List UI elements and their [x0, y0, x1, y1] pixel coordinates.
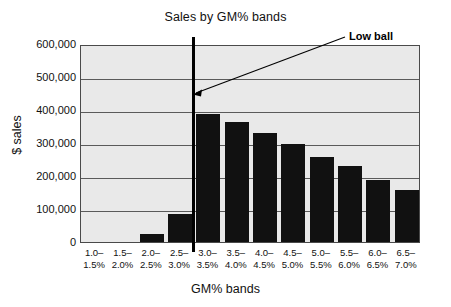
x-axis-tick-label: 1.0–1.5%	[80, 247, 108, 271]
y-axis-tick-label: 300,000	[4, 137, 76, 149]
bar[interactable]	[366, 180, 390, 242]
x-axis-tick-label-line: 4.5–	[278, 247, 306, 259]
x-axis-tick-label: 4.0–4.5%	[250, 247, 278, 271]
x-axis-tick-label-line: 7.0%	[392, 259, 420, 271]
y-axis-tick-label: 200,000	[4, 170, 76, 182]
plot-area	[80, 45, 420, 243]
bar-slot	[251, 46, 279, 242]
y-axis-tick-label: 0	[4, 236, 76, 248]
bar-slot	[308, 46, 336, 242]
bar-slot	[81, 46, 109, 242]
x-axis-tick-label-line: 2.0–	[137, 247, 165, 259]
x-axis-tick-label-line: 5.0–	[307, 247, 335, 259]
x-axis-tick-label-line: 1.5%	[80, 259, 108, 271]
x-axis-tick-label-line: 6.0–	[363, 247, 391, 259]
bar[interactable]	[253, 133, 277, 242]
x-axis-tick-labels: 1.0–1.5%1.5–2.0%2.0–2.5%2.5–3.0%3.0–3.5%…	[80, 247, 420, 281]
y-axis-tick-label: 500,000	[4, 71, 76, 83]
bar-slot	[336, 46, 364, 242]
x-axis-title: GM% bands	[0, 282, 451, 296]
y-axis-tick-label: 400,000	[4, 104, 76, 116]
x-axis-tick-label-line: 5.5–	[335, 247, 363, 259]
x-axis-tick-label: 1.5–2.0%	[108, 247, 136, 271]
x-axis-tick-label-line: 3.0%	[165, 259, 193, 271]
x-axis-tick-label-line: 3.5–	[222, 247, 250, 259]
y-axis-tick-label: 600,000	[4, 38, 76, 50]
bar[interactable]	[168, 214, 192, 242]
x-axis-tick-label-line: 2.0%	[108, 259, 136, 271]
x-axis-tick-label-line: 4.5%	[250, 259, 278, 271]
x-axis-tick-label-line: 3.0–	[193, 247, 221, 259]
bar[interactable]	[395, 190, 419, 242]
x-axis-tick-label: 5.0–5.5%	[307, 247, 335, 271]
x-axis-tick-label-line: 6.5–	[392, 247, 420, 259]
x-axis-tick-label: 3.5–4.0%	[222, 247, 250, 271]
bar-slot	[194, 46, 222, 242]
x-axis-tick-label-line: 6.0%	[335, 259, 363, 271]
x-axis-tick-label-line: 4.0–	[250, 247, 278, 259]
bar-slot	[393, 46, 421, 242]
x-axis-tick-label-line: 5.0%	[278, 259, 306, 271]
x-axis-tick-label-line: 2.5–	[165, 247, 193, 259]
bar-slot	[223, 46, 251, 242]
x-axis-tick-label-line: 3.5%	[193, 259, 221, 271]
bar[interactable]	[310, 157, 334, 242]
x-axis-tick-label: 3.0–3.5%	[193, 247, 221, 271]
y-axis-tick-labels: 600,000500,000400,000300,000200,000100,0…	[0, 0, 76, 307]
x-axis-tick-label: 2.0–2.5%	[137, 247, 165, 271]
x-axis-tick-label-line: 6.5%	[363, 259, 391, 271]
x-axis-tick-label: 6.5–7.0%	[392, 247, 420, 271]
x-axis-tick-label-line: 5.5%	[307, 259, 335, 271]
bar[interactable]	[225, 122, 249, 242]
bar[interactable]	[338, 166, 362, 242]
x-axis-tick-label-line: 4.0%	[222, 259, 250, 271]
low-ball-annotation-label: Low ball	[349, 30, 393, 42]
x-axis-tick-label-line: 2.5%	[137, 259, 165, 271]
x-axis-tick-label: 6.0–6.5%	[363, 247, 391, 271]
x-axis-tick-label-line: 1.0–	[80, 247, 108, 259]
low-ball-divider-line	[192, 37, 195, 252]
sales-by-gm-bands-chart: Sales by GM% bands $ sales 600,000500,00…	[0, 0, 451, 307]
bar-slot	[109, 46, 137, 242]
x-axis-tick-label: 2.5–3.0%	[165, 247, 193, 271]
bars-layer	[81, 46, 419, 242]
bar[interactable]	[196, 114, 220, 242]
y-axis-tick-label: 100,000	[4, 203, 76, 215]
bar[interactable]	[140, 234, 164, 242]
bar-slot	[364, 46, 392, 242]
bar[interactable]	[281, 144, 305, 242]
x-axis-tick-label: 5.5–6.0%	[335, 247, 363, 271]
bar-slot	[279, 46, 307, 242]
x-axis-tick-label: 4.5–5.0%	[278, 247, 306, 271]
bar-slot	[166, 46, 194, 242]
x-axis-tick-label-line: 1.5–	[108, 247, 136, 259]
bar-slot	[138, 46, 166, 242]
